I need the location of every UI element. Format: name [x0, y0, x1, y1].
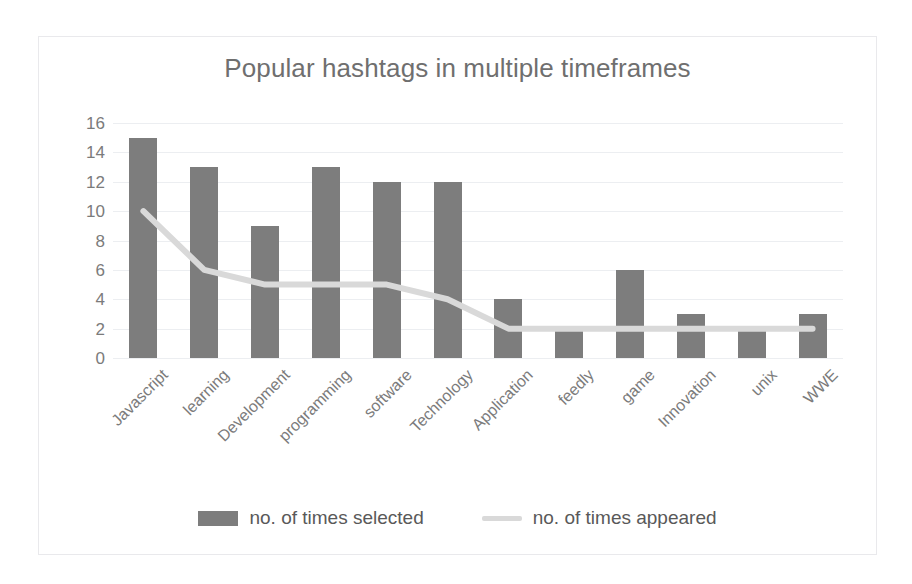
y-axis-tick-label: 12: [65, 173, 105, 190]
x-axis-tick-label: software: [360, 366, 415, 421]
legend-item-selected: no. of times selected: [198, 507, 423, 529]
x-axis-tick-label: Technology: [406, 366, 476, 436]
legend-label-appeared: no. of times appeared: [533, 507, 717, 529]
bar-swatch-icon: [198, 511, 238, 526]
x-axis-tick-label: WWE: [800, 366, 842, 408]
x-axis-tick-label: unix: [747, 366, 780, 399]
y-axis-tick-label: 14: [65, 144, 105, 161]
line-series: [113, 123, 843, 358]
plot-area: [113, 123, 843, 358]
y-axis-tick-label: 8: [65, 232, 105, 249]
x-axis-tick-label: Javascript: [108, 366, 172, 430]
x-axis-tick-label: Application: [469, 366, 537, 434]
x-axis-tick-label: game: [618, 366, 659, 407]
y-axis-tick-label: 16: [65, 115, 105, 132]
y-axis-tick-label: 0: [65, 350, 105, 367]
y-axis-tick-label: 2: [65, 320, 105, 337]
y-axis-tick-label: 10: [65, 203, 105, 220]
y-axis-tick-label: 6: [65, 261, 105, 278]
legend-item-appeared: no. of times appeared: [482, 507, 717, 529]
chart-legend: no. of times selected no. of times appea…: [39, 507, 876, 529]
line-swatch-icon: [482, 516, 522, 521]
x-axis-tick-label: Innovation: [655, 366, 720, 431]
y-axis: 1614121086420: [59, 123, 105, 358]
y-axis-tick-label: 4: [65, 291, 105, 308]
x-axis-tick-label: learning: [180, 366, 233, 419]
gridline: [113, 358, 843, 359]
x-axis-tick-label: feedly: [555, 366, 598, 409]
chart-container: Popular hashtags in multiple timeframes …: [38, 36, 877, 555]
legend-label-selected: no. of times selected: [249, 507, 423, 529]
chart-title: Popular hashtags in multiple timeframes: [39, 53, 876, 84]
line-path: [143, 211, 812, 329]
